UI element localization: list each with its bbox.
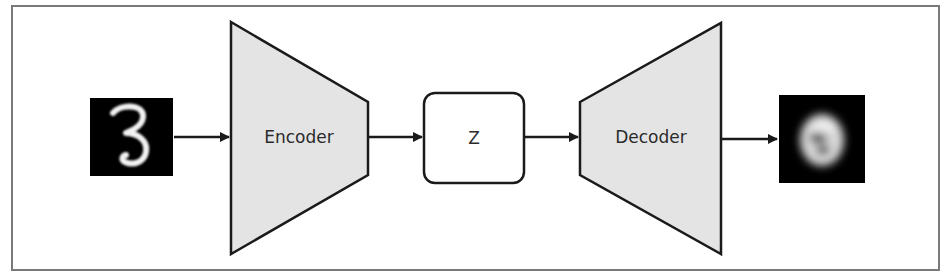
decoder-block: Decoder	[580, 23, 721, 254]
autoencoder-diagram: Encoder Z Decoder	[0, 0, 948, 279]
encoder-label: Encoder	[264, 127, 334, 147]
decoder-label: Decoder	[615, 127, 687, 147]
output-image	[779, 95, 865, 183]
encoder-block: Encoder	[231, 22, 368, 254]
input-image	[90, 98, 173, 176]
reconstructed-digit-glyph	[800, 114, 844, 166]
latent-z-box: Z	[424, 93, 524, 183]
z-label: Z	[468, 128, 480, 148]
